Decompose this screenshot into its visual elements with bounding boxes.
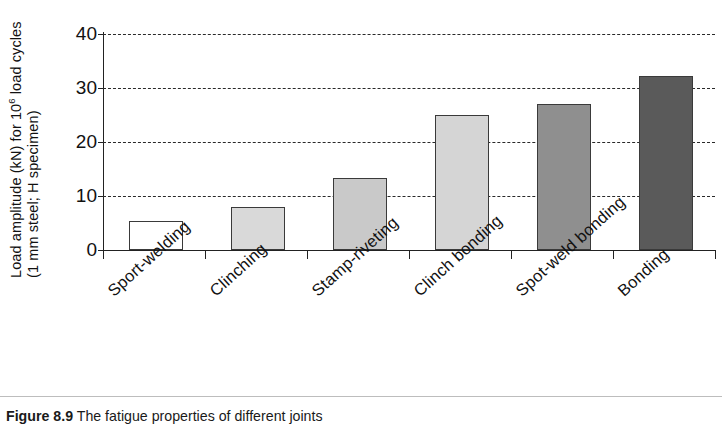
y-axis-tick-label-40: 40 [55,23,97,45]
y-axis-tick-label-0: 0 [55,239,97,261]
x-axis-tick-mark-4 [511,250,512,259]
figure-caption-number: Figure 8.9 [6,408,73,424]
x-axis-tick-mark-0 [103,250,104,259]
figure-container: Load amplitude (kN) for 106 load cycles … [0,0,722,426]
y-axis-title-line1-text: Load amplitude (kN) for 10 [8,104,24,278]
bar-bonding [639,76,693,250]
y-axis-title-line1-tail: load cycles [8,21,24,98]
x-axis-tick-mark-1 [205,250,206,259]
y-axis-tick-label-30: 30 [55,77,97,99]
plot-area [103,34,715,250]
y-axis-tick-label-20: 20 [55,131,97,153]
gridline-40 [103,34,715,35]
y-axis-title: Load amplitude (kN) for 106 load cycles … [0,0,58,290]
gridline-30 [103,88,715,89]
caption-divider [0,396,722,397]
x-axis-tick-mark-3 [409,250,410,259]
plot-inner [103,34,715,250]
y-axis-tick-labels: 40 30 20 10 0 [55,0,97,290]
y-axis-tick-label-10: 10 [55,185,97,207]
y-axis-title-line2: (1 mm steel; H specimen) [25,0,41,278]
figure-caption-text: The fatigue properties of different join… [77,408,323,424]
gridline-20 [103,142,715,143]
y-axis-title-exponent: 6 [6,98,17,103]
x-axis-tick-mark-2 [307,250,308,259]
figure-caption: Figure 8.9 The fatigue properties of dif… [6,408,722,424]
gridline-10 [103,196,715,197]
x-axis-tick-mark-5 [613,250,614,259]
y-axis-title-line1: Load amplitude (kN) for 106 load cycles [6,0,22,278]
x-axis-label-bonding: Bonding [614,245,673,301]
x-axis-tick-mark-6 [715,250,716,259]
